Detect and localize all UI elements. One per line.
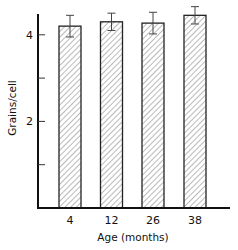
- y-axis-label: Grains/cell: [6, 80, 18, 136]
- y-ticks-group: 42: [26, 29, 45, 165]
- bar-rect: [142, 23, 164, 208]
- y-tick-label: 4: [26, 29, 33, 42]
- bar-12: [101, 13, 123, 208]
- x-tick-label: 12: [105, 214, 119, 227]
- bar-chart: 42 4122638 Age (months) Grains/cell: [0, 0, 238, 250]
- y-tick-label: 2: [26, 115, 33, 128]
- x-axis-label: Age (months): [97, 231, 168, 243]
- bar-rect: [59, 26, 81, 208]
- bar-26: [142, 12, 164, 208]
- bar-38: [184, 7, 206, 208]
- x-tick-label: 38: [188, 214, 202, 227]
- bar-rect: [184, 15, 206, 208]
- x-tick-label: 4: [67, 214, 74, 227]
- bar-4: [59, 15, 81, 208]
- x-ticks-group: 4122638: [67, 214, 203, 227]
- x-tick-label: 26: [146, 214, 160, 227]
- bar-rect: [101, 22, 123, 208]
- bars-group: [59, 7, 206, 208]
